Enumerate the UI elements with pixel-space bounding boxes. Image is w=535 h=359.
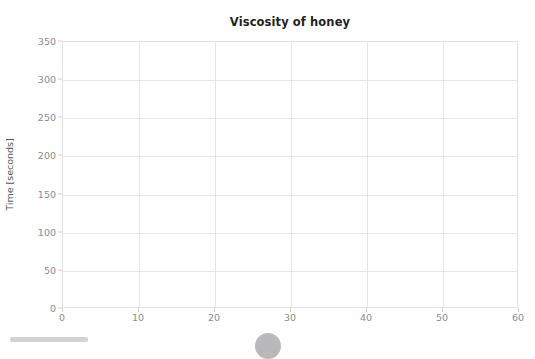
x-axis-tick-label: 10 (132, 312, 144, 323)
gridline-horizontal (63, 80, 517, 81)
gridline-horizontal (63, 271, 517, 272)
gridline-horizontal (63, 156, 517, 157)
x-axis-tick-label: 50 (436, 312, 448, 323)
gridline-horizontal (63, 118, 517, 119)
x-axis-tick-label: 60 (512, 312, 524, 323)
y-axis-tick-label: 300 (38, 74, 56, 85)
y-axis-tick-label: 350 (38, 36, 56, 47)
y-axis-title: Time [seconds] (0, 41, 18, 308)
gridline-vertical (443, 42, 444, 307)
gridline-vertical (139, 42, 140, 307)
y-axis-tick-label: 150 (38, 188, 56, 199)
scrollbar-thumb[interactable] (10, 337, 88, 342)
gridline-horizontal (63, 195, 517, 196)
y-axis-tick-label: 50 (44, 264, 56, 275)
gridline-horizontal (63, 233, 517, 234)
y-axis-tick-labels: 050100150200250300350 (20, 41, 56, 308)
gridline-vertical (291, 42, 292, 307)
x-axis-tick-label: 40 (360, 312, 372, 323)
y-axis-tick-label: 250 (38, 112, 56, 123)
plot-area[interactable] (62, 41, 518, 308)
y-axis-tick-label: 100 (38, 226, 56, 237)
x-axis-tick-label: 20 (208, 312, 220, 323)
y-axis-tick-label: 0 (50, 303, 56, 314)
x-axis-tick-label: 0 (59, 312, 65, 323)
y-axis-title-label: Time [seconds] (4, 138, 15, 211)
x-axis-tick-labels: 0102030405060 (62, 308, 518, 330)
gridlines (63, 42, 517, 307)
gridline-vertical (367, 42, 368, 307)
y-axis-tick-label: 200 (38, 150, 56, 161)
floating-action-button[interactable] (255, 333, 281, 359)
chart-title: Viscosity of honey (62, 15, 518, 29)
gridline-vertical (215, 42, 216, 307)
x-axis-tick-label: 30 (284, 312, 296, 323)
